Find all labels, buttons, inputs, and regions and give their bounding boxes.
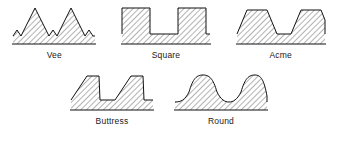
profile-square: Square	[120, 4, 212, 60]
profile-label-acme: Acme	[269, 51, 292, 60]
square-hatch-fill	[122, 8, 210, 44]
profile-label-buttress: Buttress	[96, 117, 129, 126]
profile-acme: Acme	[235, 4, 327, 60]
top-row: Vee Square Acme	[0, 4, 338, 60]
square-thread-drawing	[120, 4, 212, 48]
profile-vee: Vee	[11, 4, 97, 60]
vee-hatch-fill	[13, 8, 95, 44]
profile-round: Round	[173, 70, 269, 126]
acme-hatch-fill	[237, 10, 325, 44]
buttress-thread-drawing	[69, 70, 155, 114]
round-thread-drawing	[173, 70, 269, 114]
bottom-row: Buttress Round	[0, 70, 338, 126]
vee-thread-drawing	[11, 4, 97, 48]
thread-profiles-figure: Vee Square Acme	[0, 0, 338, 141]
profile-buttress: Buttress	[69, 70, 155, 126]
profile-label-square: Square	[152, 51, 181, 60]
acme-thread-drawing	[235, 4, 327, 48]
profile-label-round: Round	[208, 117, 234, 126]
profile-label-vee: Vee	[47, 51, 62, 60]
